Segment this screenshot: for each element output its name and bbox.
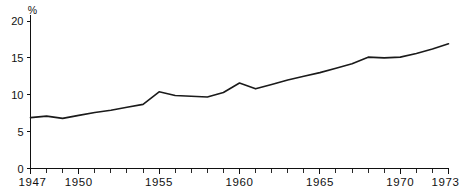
y-axis-tick-label: 15 [11,52,23,64]
x-axis-tick-label: 1947 [19,176,47,188]
y-axis-tick-label: 5 [17,126,23,138]
data-series-line [31,44,449,118]
y-axis-tick-label: 0 [17,163,23,175]
x-axis-tick-label: 1960 [226,176,254,188]
x-axis-tick-label: 1965 [306,176,334,188]
chart-container: % 05101520 1947195019551960196519701973 [0,0,465,188]
line-chart: % 05101520 1947195019551960196519701973 [0,0,465,188]
x-axis-tick-label: 1973 [432,176,460,188]
x-axis-tick-label: 1970 [386,176,414,188]
x-axis-tick-label: 1955 [145,176,173,188]
y-axis-tick-label: 10 [11,89,23,101]
y-axis-tick-label: 20 [11,15,23,27]
y-axis-unit-label: % [28,4,37,16]
x-axis-tick-label: 1950 [65,176,93,188]
